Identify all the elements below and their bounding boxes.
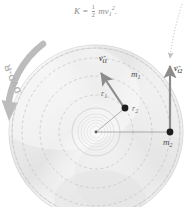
- formula-velocity-subscript: 1: [109, 11, 112, 17]
- formula-numerator: 1: [92, 4, 96, 11]
- disc-illustration-svg: [0, 0, 193, 207]
- radius-label-r1: r1: [101, 90, 107, 99]
- mass-label-m1: m1: [131, 70, 141, 80]
- point-mass-m1: [122, 105, 129, 112]
- radius-subscript-r1: 1: [104, 93, 107, 99]
- velocity-label-vt2: → vt2: [174, 65, 182, 74]
- radius-subscript-r2: 2: [135, 108, 138, 114]
- formula-lhs: K: [74, 6, 80, 16]
- dotted-pointer-arrow: [170, 4, 182, 58]
- dvd-disc-body: [0, 20, 193, 207]
- mass-subscript-m1: 1: [138, 74, 141, 80]
- vector-arrow-icon-vt1: →: [99, 52, 107, 60]
- formula-period: .: [115, 6, 117, 16]
- radius-label-r2: r2: [132, 105, 138, 114]
- physics-diagram-canvas: K = 1 2 mv12. DVD-R → vt1 → vt2 m1 m2 r1…: [0, 0, 193, 207]
- kinetic-energy-formula: K = 1 2 mv12.: [74, 4, 117, 19]
- mass-label-m2: m2: [163, 138, 173, 148]
- disc-center-point: [95, 131, 98, 134]
- point-mass-m2: [167, 129, 174, 136]
- formula-denominator: 2: [92, 11, 96, 19]
- formula-equals: =: [82, 6, 88, 16]
- velocity-label-vt1: → vt1: [99, 55, 107, 64]
- mass-subscript-m2: 2: [170, 142, 173, 148]
- vector-arrow-icon-vt2: →: [174, 62, 182, 70]
- formula-fraction: 1 2: [92, 4, 96, 19]
